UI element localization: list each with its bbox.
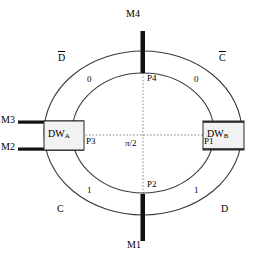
domain-wall-b-subscript: B	[224, 132, 229, 140]
domain-wall-a-subscript: A	[65, 132, 70, 140]
magnet-label-m3: M3	[1, 115, 15, 125]
top-right-quadrant-label: C	[219, 53, 226, 63]
top-left-quadrant-text: D	[58, 52, 65, 63]
diagram-canvas: M4 M1 M3 M2 D C C D 0 0 1 1 P1 P2 P3 P4 …	[0, 0, 263, 257]
magnet-label-m2: M2	[1, 142, 15, 152]
overline-d-bar	[58, 51, 65, 52]
bit-top-left: 0	[87, 75, 92, 84]
overline-c-bar	[219, 51, 226, 52]
domain-wall-b-prefix: DW	[207, 128, 224, 139]
magnet-label-m4: M4	[126, 9, 140, 19]
magnet-bar-m4	[141, 31, 146, 73]
top-left-quadrant-label: D	[58, 53, 65, 63]
domain-wall-b-label: DWB	[207, 129, 228, 140]
bit-bottom-right: 1	[194, 186, 199, 195]
point-p2: P2	[147, 180, 157, 189]
point-p4: P4	[147, 74, 157, 83]
domain-wall-a-label: DWA	[48, 129, 70, 140]
center-angle-label: π/2	[125, 139, 137, 148]
domain-wall-a-prefix: DW	[48, 128, 65, 139]
magnet-bar-m1	[141, 194, 146, 241]
top-right-quadrant-text: C	[219, 52, 226, 63]
bit-top-right: 0	[194, 75, 199, 84]
bottom-left-quadrant-label: C	[57, 204, 64, 214]
magnet-label-m1: M1	[127, 240, 141, 250]
point-p3: P3	[86, 137, 96, 146]
bottom-right-quadrant-label: D	[221, 204, 228, 214]
bit-bottom-left: 1	[87, 186, 92, 195]
